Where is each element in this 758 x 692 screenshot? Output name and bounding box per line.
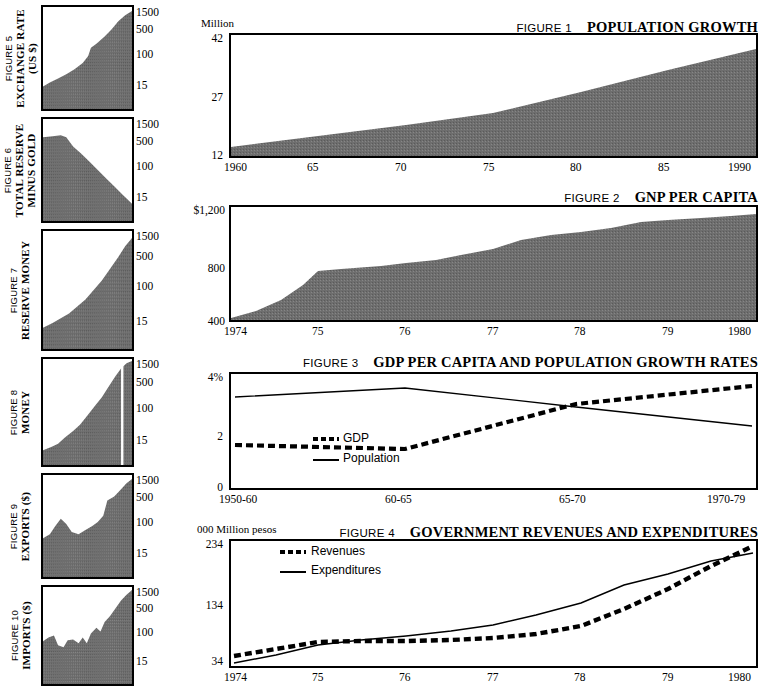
side-panel-10-plot [41,585,134,686]
figure-1-xtick-3: 75 [483,162,495,174]
figure-4: FIGURE 4 GOVERNMENT REVENUES AND EXPENDI… [195,505,758,692]
side-panel-figure-number: FIGURE 5 [3,9,14,108]
figure-2-ytick-1: 800 [185,263,225,275]
figure-2-xtick-2: 76 [399,326,411,338]
figure-4-label: FIGURE 4 [339,527,394,539]
side-panel-ytick: 15 [136,80,148,92]
side-panel-title-line: RESERVE MONEY [20,240,32,339]
figure-4-title: GOVERNMENT REVENUES AND EXPENDITURES [410,524,758,540]
figure-1: FIGURE 1 POPULATION GROWTH Million 42 27… [195,0,758,180]
figure-2-ytick-0: $1,200 [185,205,225,217]
figure-4-legend-swatch-revenues [280,550,306,554]
figure-3-xtick-0: 1950-60 [219,494,257,506]
figure-2-xtick-5: 79 [662,326,674,338]
figure-4-xtick-5: 79 [662,672,674,684]
side-panel-ytick: 15 [136,316,148,328]
figure-3-legend-label-gdp: GDP [343,431,369,445]
side-panel-5-plot [41,5,134,111]
figure-1-xtick-6: 1990 [728,162,751,174]
side-panel-7-label: FIGURE 7RESERVE MONEY [0,229,40,351]
figure-3-legend-label-population: Population [343,451,400,465]
figure-2: FIGURE 2 GNP PER CAPITA $1,200 800 400 1… [195,180,758,335]
side-panel-title-line: MONEY [20,389,32,434]
figure-3: FIGURE 3 GDP PER CAPITA AND POPULATION G… [195,345,758,505]
figure-4-line-plot [231,541,756,666]
side-panel-8-plot [41,357,134,467]
side-panel-10-yticks: 150050010015 [136,585,194,686]
side-panel-figure-number: FIGURE 7 [9,240,20,339]
figure-2-ytick-2: 400 [185,316,225,328]
side-panel-9-yticks: 150050010015 [136,473,194,579]
figure-1-ytick-0: 42 [195,33,223,45]
side-panel-figure-number: FIGURE 6 [3,123,14,217]
figure-4-legend-swatch-expenditures [280,571,306,573]
figure-4-legend-label-revenues: Revenues [311,544,365,558]
side-panel-title-line: IMPORTS ($) [20,601,32,670]
figure-2-xtick-3: 77 [487,326,499,338]
figure-4-ytick-0: 234 [195,539,223,551]
side-panel-ytick: 1500 [136,231,159,243]
figure-2-label: FIGURE 2 [564,192,619,204]
side-panel-ytick: 1500 [136,587,159,599]
figure-4-ytick-1: 134 [195,600,223,612]
figure-4-legend-label-expenditures: Expenditures [311,563,381,577]
side-panel-ytick: 1500 [136,119,159,131]
figure-4-xtick-2: 76 [399,672,411,684]
figure-2-xtick-4: 78 [574,326,586,338]
figure-3-legend-swatch-population [313,459,339,461]
side-panel-7-yticks: 150050010015 [136,229,194,351]
figure-3-plot-frame [229,372,758,490]
side-panel-title-line: (US $) [26,9,38,108]
figure-2-xtick-0: 1974 [224,326,247,338]
figure-1-xtick-0: 1960 [224,162,247,174]
figure-3-title: GDP PER CAPITA AND POPULATION GROWTH RAT… [373,354,758,370]
side-panel-6-label: FIGURE 6TOTAL RESERVEMINUS GOLD [0,117,40,223]
side-panel-ytick: 100 [136,627,153,639]
figure-1-unit: Million [201,17,234,29]
figure-4-xtick-0: 1974 [224,672,247,684]
side-panel-8-yticks: 150050010015 [136,357,194,467]
side-panel-ytick: 100 [136,403,153,415]
figure-3-label: FIGURE 3 [303,357,358,369]
figure-1-xtick-1: 65 [307,162,319,174]
figure-4-xtick-6: 1980 [728,672,751,684]
figure-1-xtick-2: 70 [395,162,407,174]
figure-3-ytick-2: 0 [195,482,223,494]
figure-1-ytick-1: 27 [195,92,223,104]
side-panel-ytick: 500 [136,377,153,389]
figure-1-ytick-2: 12 [195,150,223,162]
figure-4-plot-frame [229,539,758,668]
side-panel-9-label: FIGURE 9EXPORTS ($) [0,473,40,579]
side-panel-title-line: EXPORTS ($) [20,491,32,560]
side-panel-ytick: 100 [136,517,153,529]
side-panel-6-plot [41,117,134,223]
figure-4-xtick-4: 78 [574,672,586,684]
side-panel-ytick: 15 [136,548,148,560]
figure-3-xtick-1: 60-65 [385,494,412,506]
figure-3-header: FIGURE 3 GDP PER CAPITA AND POPULATION G… [303,353,758,371]
figure-4-unit: 000 Million pesos [197,523,276,535]
figure-2-xtick-6: 1980 [728,326,751,338]
figure-2-header: FIGURE 2 GNP PER CAPITA [564,188,758,206]
side-panel-ytick: 500 [136,24,153,36]
side-panel-ytick: 1500 [136,475,159,487]
side-panel-7-plot [41,229,134,351]
figure-2-title: GNP PER CAPITA [635,189,758,205]
figure-1-xtick-5: 85 [658,162,670,174]
figure-4-ytick-2: 34 [195,656,223,668]
side-panel-ytick: 15 [136,192,148,204]
side-panel-5-label: FIGURE 5EXCHANGE RATE(US $) [0,5,40,111]
side-panel-figure-number: FIGURE 10 [9,601,20,670]
figure-1-xtick-4: 80 [570,162,582,174]
side-panel-figure-number: FIGURE 9 [9,491,20,560]
figure-3-ytick-1: 2 [195,431,223,443]
side-panel-figure-number: FIGURE 8 [9,389,20,434]
side-panel-title-line: MINUS GOLD [26,123,38,217]
figure-3-xtick-3: 1970-79 [707,494,745,506]
figure-2-area-plot [231,207,756,320]
figure-3-legend-swatch-gdp [313,437,339,441]
side-panel-8-label: FIGURE 8MONEY [0,357,40,467]
figure-1-plot-frame [229,33,758,158]
side-panel-ytick: 100 [136,161,153,173]
side-panel-ytick: 100 [136,49,153,61]
